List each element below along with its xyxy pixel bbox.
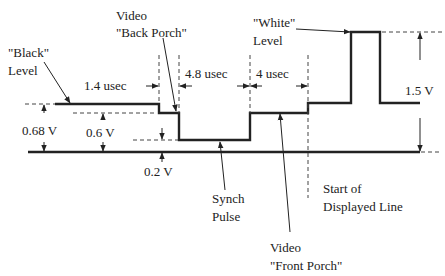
timing-4-usec: 4 usec <box>256 66 289 81</box>
front-porch-label: Video <box>270 240 301 255</box>
back-porch-label-2: "Back Porch" <box>116 25 187 40</box>
white-level-label: "White" <box>253 15 295 30</box>
video-signal-diagram: 1.4 usec 4.8 usec 4 usec 0.68 V 0.6 V 0.… <box>0 0 445 276</box>
sync-pulse-label-2: Pulse <box>212 209 240 224</box>
black-level-label-2: Level <box>8 63 38 78</box>
voltage-1-5-v: 1.5 V <box>405 83 434 98</box>
start-displayed-line-label-2: Displayed Line <box>323 199 403 214</box>
timing-1-4-usec: 1.4 usec <box>84 78 127 93</box>
voltage-0-2-v: 0.2 V <box>144 164 173 179</box>
black-level-label: "Black" <box>8 45 49 60</box>
voltage-markers <box>44 33 420 162</box>
start-displayed-line-label: Start of <box>323 181 362 196</box>
sync-pulse-label: Synch <box>212 191 245 206</box>
voltage-0-68-v: 0.68 V <box>22 123 58 138</box>
front-porch-label-2: "Front Porch" <box>270 258 342 273</box>
timing-4-8-usec: 4.8 usec <box>185 66 228 81</box>
back-porch-label: Video <box>116 8 147 23</box>
voltage-0-6-v: 0.6 V <box>86 125 115 140</box>
white-level-label-2: Level <box>253 33 283 48</box>
